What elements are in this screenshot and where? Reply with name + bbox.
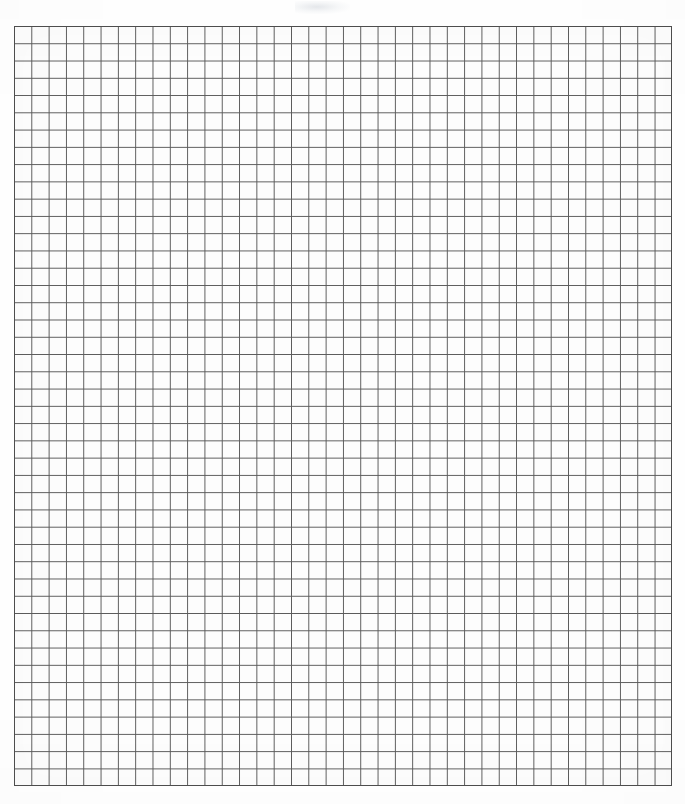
graph-paper-sheet (0, 0, 685, 804)
graph-paper-grid (14, 26, 672, 786)
scan-artifact-smudge (295, 1, 350, 14)
